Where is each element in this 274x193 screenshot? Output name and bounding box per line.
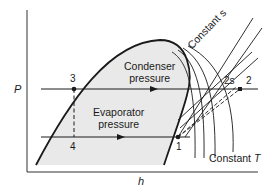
y-axis-label: P [14,84,21,95]
condenser-label-line1: Condenser [124,60,175,72]
point-2s-label: 2s [224,76,235,86]
evaporator-label-line2: pressure [93,118,144,130]
point-1-label: 1 [176,142,182,152]
point-2-label: 2 [246,76,252,86]
constant-t-var: T [254,152,260,164]
point-2-marker [238,87,242,91]
condenser-label-line2: pressure [124,72,175,84]
ph-diagram-canvas [0,0,274,193]
condenser-pressure-label: Condenser pressure [124,60,175,84]
point-3-marker [72,87,77,92]
x-axis-label: h [138,176,144,187]
point-4-label: 4 [70,142,76,152]
point-1-marker [176,135,181,140]
constant-t-prefix: Constant [209,152,254,164]
evaporator-pressure-label: Evaporator pressure [93,106,144,130]
constant-t-label: Constant T [209,153,260,164]
evaporator-label-line1: Evaporator [93,106,144,118]
point-3-label: 3 [70,74,76,84]
